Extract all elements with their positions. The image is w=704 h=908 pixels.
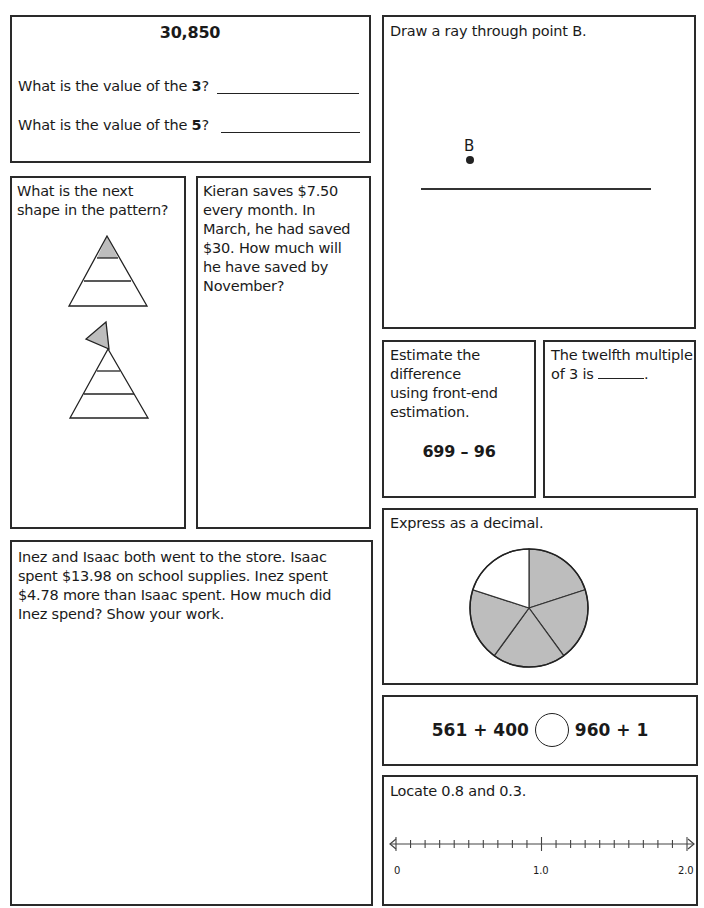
compare-left: 561 + 400 (432, 720, 529, 740)
number-line-label-1: 1.0 (533, 861, 548, 880)
pattern-box: What is the next shape in the pattern? (10, 176, 186, 529)
answer-blank-2[interactable] (221, 132, 360, 133)
number-line-label-0: 0 (394, 861, 400, 880)
work-area[interactable] (16, 642, 367, 900)
decimal-box: Express as a decimal. (382, 508, 698, 685)
compare-circle[interactable] (535, 713, 569, 747)
compare-expression: 561 + 400 960 + 1 (384, 713, 696, 747)
place-value-question-2: What is the value of the 5? (18, 116, 209, 135)
point-label: B (464, 137, 474, 156)
ray-question: Draw a ray through point B. (390, 22, 586, 41)
estimate-question: Estimate the difference using front-end … (390, 346, 530, 422)
place-value-question-1: What is the value of the 3? (18, 77, 209, 96)
pie-chart-icon (382, 508, 698, 685)
estimate-box: Estimate the difference using front-end … (382, 340, 536, 498)
place-value-number: 30,850 (12, 23, 368, 42)
place-value-box: 30,850 What is the value of the 3? What … (10, 15, 371, 163)
number-line[interactable] (382, 775, 698, 906)
savings-box: Kieran saves $7.50 every month. In March… (196, 176, 371, 529)
spending-box: Inez and Isaac both went to the store. I… (10, 540, 373, 906)
reference-line (421, 188, 651, 190)
savings-question: Kieran saves $7.50 every month. In March… (203, 182, 363, 296)
ray-box: Draw a ray through point B. B (382, 15, 696, 329)
multiple-box: The twelfth multiple of 3 is . (543, 340, 696, 498)
triangle-with-flag-icon (10, 176, 186, 529)
compare-right: 960 + 1 (575, 720, 648, 740)
number-line-box: Locate 0.8 and 0.3. 0 1.0 2.0 (382, 775, 698, 906)
multiple-question: The twelfth multiple of 3 is . (551, 346, 693, 384)
number-line-label-2: 2.0 (678, 861, 693, 880)
answer-blank-1[interactable] (217, 93, 359, 94)
multiple-answer-blank[interactable] (598, 378, 644, 379)
point-b-dot[interactable] (466, 156, 474, 164)
estimate-expression: 699 – 96 (384, 442, 534, 461)
spending-question: Inez and Isaac both went to the store. I… (18, 548, 363, 624)
compare-box: 561 + 400 960 + 1 (382, 695, 698, 766)
